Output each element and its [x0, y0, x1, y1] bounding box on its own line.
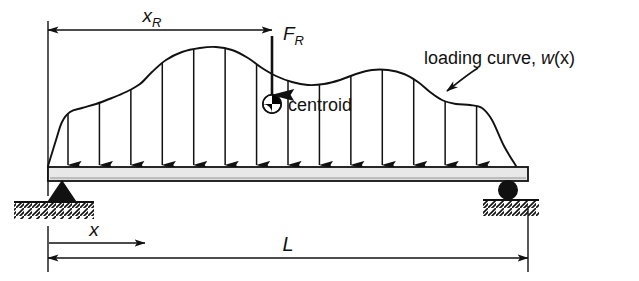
label-fr: FR: [283, 23, 304, 48]
ground-hatch-left: [14, 202, 94, 219]
support-pin-left: [14, 181, 94, 219]
label-fr-subscript: R: [295, 33, 304, 48]
label-loading-curve-arg: (x): [554, 48, 575, 68]
label-xr: xR: [142, 5, 162, 30]
roller-circle: [499, 181, 518, 200]
beam: [48, 167, 528, 181]
loading-curve-leader: [447, 68, 478, 91]
loading-curve-leader-arrow: [447, 68, 478, 91]
support-roller-right: [483, 181, 539, 216]
label-xr-subscript: R: [152, 15, 161, 30]
pin-triangle: [48, 181, 76, 202]
beam-loading-diagram: xR FR centroid loading curve, w(x) x L: [0, 0, 639, 281]
ground-hatch-right: [483, 200, 539, 216]
text-labels: xR FR centroid loading curve, w(x) x L: [88, 5, 575, 255]
label-x-axis: x: [88, 219, 100, 240]
centroid-marker: [263, 95, 281, 113]
label-loading-curve: loading curve, w(x): [424, 48, 575, 68]
label-centroid: centroid: [288, 95, 352, 115]
label-loading-curve-function: w: [541, 48, 555, 68]
label-loading-curve-text: loading curve,: [424, 48, 541, 68]
label-length: L: [282, 233, 293, 255]
diagram-canvas: xR FR centroid loading curve, w(x) x L: [0, 0, 639, 281]
